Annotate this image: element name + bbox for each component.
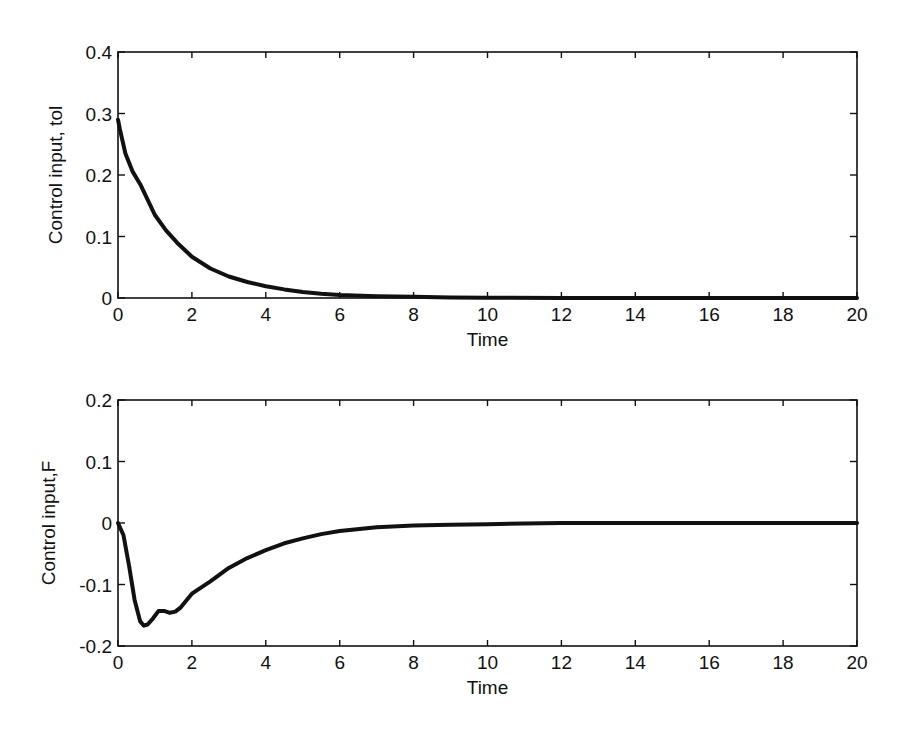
y-tick-label: -0.2 <box>79 636 112 657</box>
data-line-tol <box>118 120 857 298</box>
x-tick-label: 14 <box>625 304 647 325</box>
y-tick-label: 0.1 <box>86 452 112 473</box>
y-tick-label: 0.2 <box>86 390 112 411</box>
x-tick-label: 4 <box>261 652 272 673</box>
x-tick-label: 20 <box>846 304 867 325</box>
x-tick-label: 18 <box>773 652 794 673</box>
x-tick-label: 20 <box>846 652 867 673</box>
x-tick-label: 8 <box>408 304 419 325</box>
y-tick-label: -0.1 <box>79 575 112 596</box>
y-axis-label: Control input,F <box>38 461 59 586</box>
x-tick-label: 12 <box>551 304 572 325</box>
x-tick-label: 16 <box>699 652 720 673</box>
bottom-axes: 02468101214161820-0.2-0.100.10.2TimeCont… <box>38 390 868 698</box>
x-tick-label: 12 <box>551 652 572 673</box>
x-tick-label: 18 <box>773 304 794 325</box>
data-line-F <box>118 523 857 626</box>
x-tick-label: 0 <box>113 652 124 673</box>
x-tick-label: 14 <box>625 652 647 673</box>
x-tick-label: 6 <box>334 304 345 325</box>
x-tick-label: 4 <box>261 304 272 325</box>
axes-box <box>118 52 857 298</box>
x-tick-label: 8 <box>408 652 419 673</box>
y-tick-label: 0 <box>101 513 112 534</box>
x-tick-label: 0 <box>113 304 124 325</box>
y-tick-label: 0.3 <box>86 104 112 125</box>
x-tick-label: 10 <box>477 652 498 673</box>
y-axis-label: Control input, tol <box>45 106 66 244</box>
y-tick-label: 0.4 <box>86 42 113 63</box>
y-tick-label: 0 <box>101 288 112 309</box>
x-axis-label: Time <box>467 677 509 698</box>
x-tick-label: 2 <box>187 652 198 673</box>
y-tick-label: 0.1 <box>86 227 112 248</box>
y-tick-label: 0.2 <box>86 165 112 186</box>
top-axes: 0246810121416182000.10.20.30.4TimeContro… <box>45 42 868 350</box>
x-axis-label: Time <box>467 329 509 350</box>
x-tick-label: 6 <box>334 652 345 673</box>
x-tick-label: 2 <box>187 304 198 325</box>
x-tick-label: 16 <box>699 304 720 325</box>
x-tick-label: 10 <box>477 304 498 325</box>
figure: 0246810121416182000.10.20.30.4TimeContro… <box>0 0 898 741</box>
